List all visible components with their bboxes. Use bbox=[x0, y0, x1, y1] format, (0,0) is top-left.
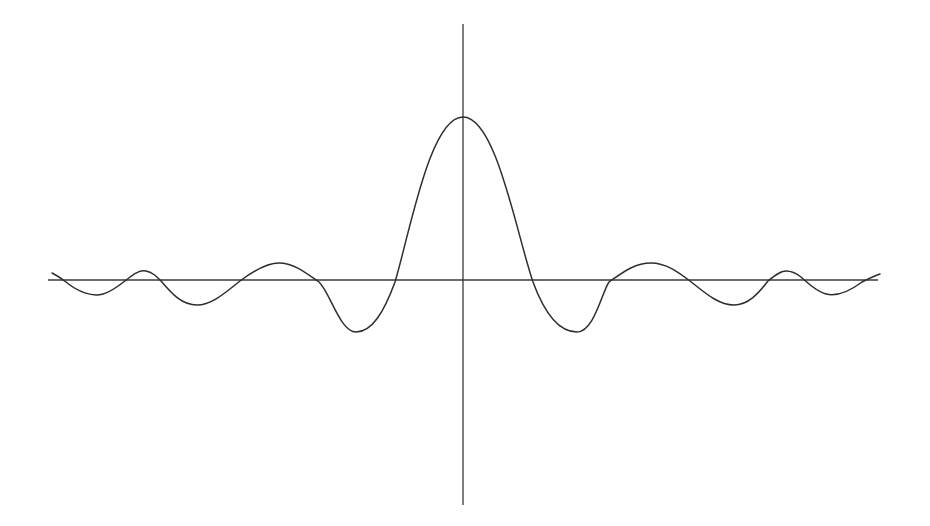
chart-background bbox=[0, 0, 930, 526]
sinc-chart bbox=[0, 0, 930, 526]
